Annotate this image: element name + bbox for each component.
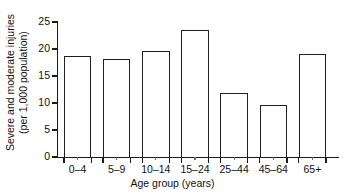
x-axis-minor-tick (194, 157, 195, 160)
x-axis-minor-tick (155, 157, 156, 160)
y-axis-tick-label: 5 (10, 124, 50, 134)
y-axis-tick (52, 21, 57, 22)
y-axis-tick-label: 20 (10, 43, 50, 53)
bar (220, 93, 247, 157)
y-axis-tick-label: 25 (10, 16, 50, 26)
bar (299, 54, 326, 157)
x-axis-tick (298, 157, 299, 163)
y-axis-tick (52, 129, 57, 130)
x-axis-tick-label: 10–14 (136, 164, 175, 175)
y-axis-tick-label: 10 (10, 97, 50, 107)
x-axis-tick-label: 25–44 (215, 164, 254, 175)
x-axis-tick (130, 157, 131, 163)
bar (142, 51, 169, 157)
bar (64, 56, 91, 157)
x-axis-tick-label: 0–4 (58, 164, 97, 175)
y-axis-tick-label: 0 (10, 151, 50, 161)
x-axis-tick (325, 157, 326, 163)
y-axis-tick (52, 48, 57, 49)
x-axis-tick (102, 157, 103, 163)
y-axis-line (57, 21, 58, 158)
x-axis-minor-tick (312, 157, 313, 160)
y-axis-tick (52, 156, 57, 157)
y-axis-tick (52, 75, 57, 76)
chart-figure: Severe and moderate injuries (per 1,000 … (0, 0, 345, 195)
x-axis-minor-tick (77, 157, 78, 160)
x-axis-minor-tick (234, 157, 235, 160)
x-axis-tick-label: 15–24 (175, 164, 214, 175)
x-axis-tick (91, 157, 92, 163)
bar (181, 30, 208, 157)
x-axis-minor-tick (116, 157, 117, 160)
y-axis-tick (52, 102, 57, 103)
y-axis-tick-label: 15 (10, 70, 50, 80)
x-axis-tick-label: 45–64 (254, 164, 293, 175)
x-axis-tick-label: 65+ (293, 164, 332, 175)
bar (103, 59, 130, 157)
x-axis-minor-tick (273, 157, 274, 160)
bar (260, 105, 287, 157)
x-axis-tick-label: 5–9 (97, 164, 136, 175)
x-axis-title: Age group (years) (0, 177, 345, 189)
x-axis-tick (63, 157, 64, 163)
